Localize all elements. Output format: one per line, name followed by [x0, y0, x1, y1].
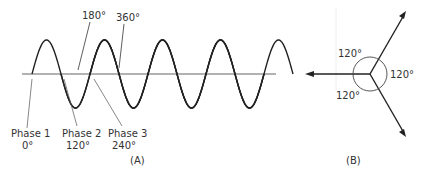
- leader-phase-1: [27, 79, 32, 128]
- phase-2-label: Phase 2: [62, 128, 101, 139]
- label-360: 360°: [116, 12, 140, 23]
- caption-a: (A): [130, 155, 145, 166]
- three-phase-diagram: 180° 360° Phase 1 0° Phase 2 120° Phase …: [0, 0, 425, 176]
- phase-3-angle: 240°: [112, 140, 136, 151]
- phasor-panel: 120° 120° 120° (B): [305, 8, 414, 166]
- leader-360: [119, 24, 124, 68]
- phase-2-angle: 120°: [66, 140, 90, 151]
- phase-3-label: Phase 3: [108, 128, 147, 139]
- angle-label-right: 120°: [390, 69, 414, 80]
- leader-phase-3: [94, 79, 122, 126]
- phasor-up-right: [370, 15, 404, 74]
- phasor-down-right: [370, 74, 404, 133]
- arrow-left-icon: [305, 71, 314, 77]
- label-180: 180°: [82, 10, 106, 21]
- phase-1-label: Phase 1: [11, 128, 50, 139]
- angle-label-top: 120°: [338, 48, 362, 59]
- sine-waves-panel: 180° 360° Phase 1 0° Phase 2 120° Phase …: [11, 10, 293, 166]
- angle-label-bottom: 120°: [336, 90, 360, 101]
- arrow-up-right-icon: [399, 11, 406, 19]
- leader-phase-2: [64, 79, 77, 126]
- leader-180: [78, 22, 90, 70]
- phase-1-angle: 0°: [22, 140, 33, 151]
- caption-b: (B): [346, 155, 361, 166]
- arrow-down-right-icon: [399, 129, 406, 137]
